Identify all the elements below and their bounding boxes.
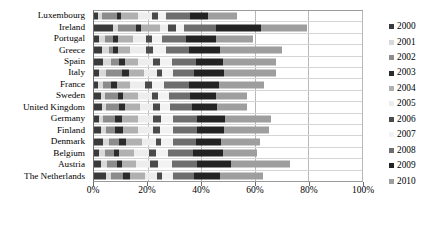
bar-row — [94, 68, 362, 79]
bar-segment — [123, 93, 138, 100]
legend-item[interactable]: 2003 — [389, 65, 446, 80]
bar-segment — [111, 172, 123, 179]
legend-item[interactable]: 2002 — [389, 50, 446, 65]
legend-label: 2007 — [397, 130, 416, 139]
legend-item[interactable]: 2009 — [389, 158, 446, 173]
legend-item[interactable]: 2010 — [389, 174, 446, 189]
bar-segment — [149, 150, 156, 157]
bar-segment — [105, 150, 114, 157]
bar-row — [94, 148, 362, 159]
legend-swatch-icon — [389, 163, 394, 168]
bar-segment — [190, 13, 207, 20]
bar-segment — [141, 24, 160, 31]
stacked-bar — [94, 138, 362, 145]
bar-row — [94, 114, 362, 125]
bar-segment — [176, 24, 184, 31]
bar-segment — [121, 13, 138, 20]
bar-segment — [197, 127, 224, 134]
bar-segment — [145, 172, 157, 179]
bar-segment — [107, 161, 116, 168]
x-axis-tick-labels: 0%20%40%60%80%100% — [93, 185, 363, 203]
bar-segment — [153, 47, 166, 54]
bar-segment — [99, 70, 106, 77]
legend-item[interactable]: 2007 — [389, 127, 446, 142]
legend-label: 2010 — [397, 177, 416, 186]
legend-item[interactable]: 2006 — [389, 112, 446, 127]
stacked-bar — [94, 104, 362, 111]
bar-segment — [106, 70, 122, 77]
bar-segment — [220, 172, 263, 179]
bar-segment — [162, 172, 173, 179]
bar-segment — [160, 127, 173, 134]
bar-segment — [152, 81, 164, 88]
legend-item[interactable]: 2000 — [389, 19, 446, 34]
bar-segment — [161, 138, 173, 145]
bar-segment — [130, 81, 145, 88]
stacked-bar — [94, 36, 362, 43]
bar-segment — [118, 24, 135, 31]
y-axis-label: Germany — [0, 113, 89, 124]
bar-row — [94, 34, 362, 45]
bar-segment — [194, 172, 219, 179]
bar-segment — [169, 93, 190, 100]
bar-segment — [109, 138, 120, 145]
bar-row — [94, 11, 362, 22]
bar-segment — [168, 150, 193, 157]
bar-segment — [140, 104, 153, 111]
bar-segment — [173, 115, 197, 122]
bar-segment — [197, 161, 231, 168]
stacked-bar — [94, 81, 362, 88]
plot-area — [93, 10, 363, 182]
bar-segment — [173, 172, 194, 179]
stacked-bar — [94, 150, 362, 157]
bar-segment — [111, 58, 119, 65]
bar-segment — [94, 161, 101, 168]
legend-label: 2009 — [397, 161, 416, 170]
bar-segment — [103, 81, 111, 88]
bar-segment — [101, 161, 108, 168]
legend-item[interactable]: 2005 — [389, 96, 446, 111]
bar-segment — [172, 58, 196, 65]
bar-segment — [94, 127, 101, 134]
bar-segment — [94, 58, 103, 65]
legend-item[interactable]: 2001 — [389, 34, 446, 49]
bar-segment — [119, 150, 134, 157]
bar-segment — [153, 127, 160, 134]
gridline — [362, 11, 363, 181]
legend-swatch-icon — [389, 71, 394, 76]
bar-segment — [168, 24, 176, 31]
bar-segment — [197, 115, 225, 122]
bar-segment — [138, 58, 153, 65]
bar-segment — [189, 81, 218, 88]
bar-segment — [160, 104, 171, 111]
bar-row — [94, 125, 362, 136]
bar-segment — [150, 161, 158, 168]
bar-segment — [138, 93, 151, 100]
bar-segment — [158, 93, 169, 100]
legend-item[interactable]: 2008 — [389, 143, 446, 158]
y-axis-label: The Netherlands — [0, 171, 89, 182]
bar-segment — [118, 47, 130, 54]
bar-segment — [161, 115, 173, 122]
y-axis-label: Luxembourg — [0, 10, 89, 21]
bar-segment — [162, 36, 186, 43]
bar-segment — [173, 138, 196, 145]
bar-row — [94, 45, 362, 56]
bar-segment — [145, 81, 152, 88]
bar-segment — [261, 24, 307, 31]
bar-segment — [129, 70, 144, 77]
legend-item[interactable]: 2004 — [389, 81, 446, 96]
bar-segment — [94, 138, 103, 145]
bar-segment — [216, 93, 247, 100]
bar-segment — [223, 150, 258, 157]
legend-swatch-icon — [389, 24, 394, 29]
stacked-bar — [94, 127, 362, 134]
bar-segment — [122, 70, 129, 77]
bar-segment — [130, 172, 145, 179]
bar-row — [94, 171, 362, 181]
y-axis-label: Belgium — [0, 148, 89, 159]
legend-swatch-icon — [389, 55, 394, 60]
bar-segment — [134, 150, 149, 157]
bars-container — [94, 11, 362, 181]
legend-label: 2008 — [397, 146, 416, 155]
